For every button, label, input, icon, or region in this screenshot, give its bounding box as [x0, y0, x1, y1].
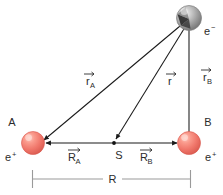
positron-a-sphere	[22, 132, 45, 155]
label-vector-r: r	[166, 72, 176, 87]
positron-b-sphere	[178, 132, 201, 155]
point-s-marker	[112, 141, 116, 145]
label-charge-positron-b: e +	[205, 150, 217, 163]
svg-text:r: r	[168, 75, 172, 87]
label-vector-rA: r A	[84, 72, 95, 90]
label-vector-RA-sub: A	[76, 157, 81, 166]
label-vector-rA-sub: A	[90, 81, 95, 90]
label-charge-electron: e −	[204, 23, 216, 37]
svg-text:e: e	[204, 25, 210, 37]
vector-line-rA	[44, 21, 186, 140]
label-charge-positron-b-sign: +	[212, 150, 217, 159]
label-vector-rB: r B	[201, 68, 212, 86]
label-charge-positron-a: e +	[5, 150, 17, 163]
diagram-canvas: A B S e − e + e + r A r	[0, 0, 223, 195]
label-charge-positron-a-sign: +	[12, 150, 17, 159]
label-vector-RA: R A	[68, 148, 81, 166]
label-dimension-R: R	[109, 173, 117, 185]
label-point-s: S	[115, 149, 122, 161]
vector-line-r	[116, 24, 187, 139]
label-vector-rB-sub: B	[207, 77, 212, 86]
electron-sphere	[177, 6, 202, 31]
physics-diagram-figure: A B S e − e + e + r A r	[0, 0, 223, 195]
label-vector-RB-sub: B	[148, 157, 153, 166]
svg-text:e: e	[5, 151, 11, 163]
label-vector-RB: R B	[140, 148, 153, 166]
label-point-a: A	[8, 116, 16, 128]
label-point-b: B	[204, 116, 211, 128]
svg-text:e: e	[205, 151, 211, 163]
label-charge-electron-sign: −	[211, 23, 216, 32]
